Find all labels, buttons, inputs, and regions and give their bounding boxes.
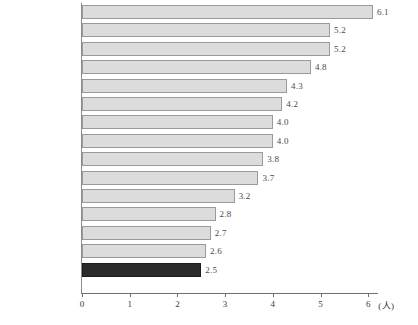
bar-value-label: 2.7	[215, 226, 227, 240]
bar	[82, 5, 373, 19]
x-axis-tick	[82, 293, 83, 297]
bar-value-label: 4.8	[315, 60, 327, 74]
x-axis-tick-label: 0	[67, 299, 97, 309]
bar-highlighted	[82, 263, 201, 277]
bar	[82, 244, 206, 258]
bar-value-label: 2.5	[205, 263, 217, 277]
bar-value-label: 3.7	[262, 171, 274, 185]
bar	[82, 171, 258, 185]
bar-value-label: 2.6	[210, 244, 222, 258]
bar	[82, 152, 263, 166]
bar-value-label: 3.2	[239, 189, 251, 203]
bar	[82, 42, 330, 56]
x-axis-tick	[321, 293, 322, 297]
x-axis-tick-label: 3	[210, 299, 240, 309]
bar	[82, 115, 273, 129]
bar	[82, 226, 211, 240]
bar-value-label: 5.2	[334, 42, 346, 56]
bar	[82, 189, 235, 203]
bar-value-label: 4.2	[286, 97, 298, 111]
bar-chart: ギリシャ6.1オーストリア5.2ポルトガル5.2ノルウェー4.8ドイツ4.3デン…	[0, 0, 418, 325]
x-axis-unit-label: (人)	[378, 299, 394, 312]
x-axis-tick	[368, 293, 369, 297]
x-axis-tick-label: 1	[115, 299, 145, 309]
x-axis-tick-label: 5	[306, 299, 336, 309]
bar	[82, 60, 311, 74]
bar-value-label: 4.0	[277, 134, 289, 148]
plot-area: ギリシャ6.1オーストリア5.2ポルトガル5.2ノルウェー4.8ドイツ4.3デン…	[0, 0, 418, 325]
bar	[82, 23, 330, 37]
bar	[82, 134, 273, 148]
bar	[82, 97, 282, 111]
x-axis-line	[81, 293, 378, 294]
bar-value-label: 4.3	[291, 79, 303, 93]
bar	[82, 207, 216, 221]
x-axis-tick-label: 2	[162, 299, 192, 309]
x-axis-tick-label: 4	[258, 299, 288, 309]
x-axis-tick	[225, 293, 226, 297]
x-axis-tick	[177, 293, 178, 297]
bar-value-label: 5.2	[334, 23, 346, 37]
bar-value-label: 6.1	[377, 5, 389, 19]
x-axis-tick	[273, 293, 274, 297]
x-axis-tick	[130, 293, 131, 297]
bar-value-label: 4.0	[277, 115, 289, 129]
bar-value-label: 2.8	[220, 207, 232, 221]
bar	[82, 79, 287, 93]
bar-value-label: 3.8	[267, 152, 279, 166]
